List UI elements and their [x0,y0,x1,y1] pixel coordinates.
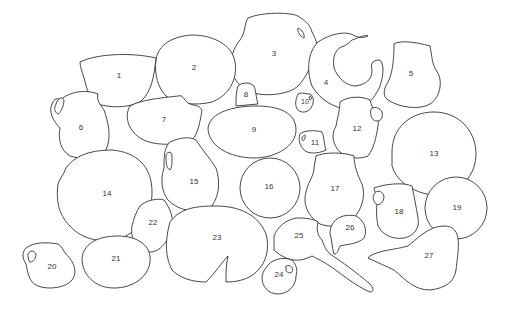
label-26: 26 [346,223,355,232]
label-17: 17 [331,184,340,193]
label-10: 10 [301,98,309,105]
label-22: 22 [149,218,158,227]
vessel-18-handle [373,191,384,204]
label-20: 20 [48,262,57,271]
vessel-23 [166,206,267,282]
vessel-24-handle [286,265,293,272]
label-11: 11 [311,138,320,147]
label-14: 14 [103,189,112,198]
vessel-diagram: 1 2 3 4 5 6 7 8 9 10 11 12 13 14 15 16 1… [0,0,507,310]
label-2: 2 [192,63,197,72]
label-6: 6 [79,123,84,132]
vessel-15 [162,138,219,211]
label-27: 27 [425,251,434,260]
label-13: 13 [430,149,439,158]
label-21: 21 [112,254,121,263]
label-16: 16 [265,182,274,191]
label-9: 9 [252,125,257,134]
vessel-26 [330,215,366,254]
label-1: 1 [117,71,122,80]
label-12: 12 [353,124,362,133]
vessel-10-handle [309,96,311,100]
label-19: 19 [453,203,462,212]
label-3: 3 [272,49,277,58]
label-4: 4 [324,78,329,87]
vessel-27 [368,226,458,290]
label-24: 24 [275,270,284,279]
label-8: 8 [244,90,249,99]
label-15: 15 [190,177,199,186]
label-25: 25 [295,231,304,240]
vessel-12-handle [371,107,383,121]
label-18: 18 [395,207,404,216]
label-23: 23 [213,233,222,242]
label-5: 5 [409,69,414,78]
label-7: 7 [162,115,167,124]
